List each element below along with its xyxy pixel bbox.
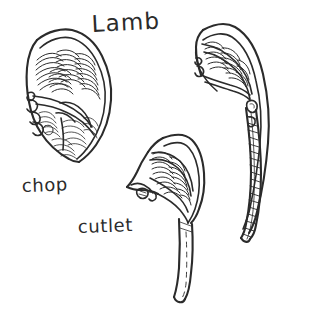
caption-cutlet: cutlet: [77, 214, 133, 237]
lamb-chop-drawing: [27, 29, 112, 162]
page-title: Lamb: [91, 7, 161, 37]
illustration-canvas: Lamb chop cutlet: [0, 0, 312, 321]
lamb-cuts-illustration: Lamb chop cutlet: [0, 0, 312, 321]
caption-chop: chop: [21, 173, 68, 196]
cutlet-bone-centre-dash: [182, 232, 187, 298]
lamb-cutlet-drawing: [127, 135, 204, 302]
chop-muscle-hatching-upper: [36, 50, 100, 99]
lamb-best-end-drawing: [195, 24, 269, 242]
